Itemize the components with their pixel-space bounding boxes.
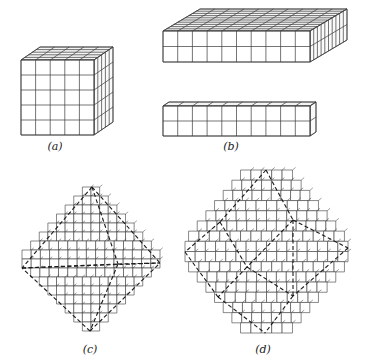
stepped-solid-d (185, 167, 351, 333)
cube-block-a (21, 47, 113, 135)
label-b: (b) (223, 140, 239, 153)
crystal-shapes-diagram (0, 0, 366, 361)
label-c: (c) (83, 343, 98, 356)
label-d: (d) (255, 343, 271, 356)
stepped-solid-c (22, 185, 163, 331)
cube-block-b1 (163, 9, 347, 62)
figure-canvas: (a) (b) (c) (d) (0, 0, 366, 361)
label-a: (a) (47, 140, 62, 153)
cube-block-b2 (163, 102, 316, 136)
